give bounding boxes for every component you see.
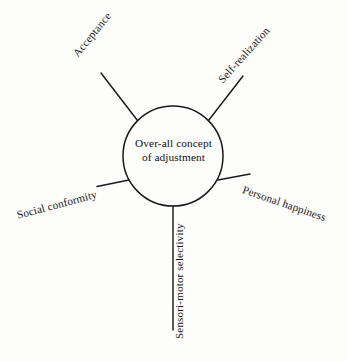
hub-label-line-2: of adjustment bbox=[123, 150, 224, 164]
hub-label: Over-all concept of adjustment bbox=[123, 136, 224, 164]
diagram-page: Over-all concept of adjustment Acceptanc… bbox=[0, 0, 347, 362]
spoke-line-acceptance bbox=[101, 73, 138, 121]
hub-label-line-1: Over-all concept bbox=[123, 136, 224, 150]
node-label-sensori-motor-selectivity: Sensori-motor selectivity bbox=[173, 223, 185, 339]
spoke-line-social-conformity bbox=[97, 180, 129, 187]
spoke-line-personal-happiness bbox=[218, 174, 250, 180]
